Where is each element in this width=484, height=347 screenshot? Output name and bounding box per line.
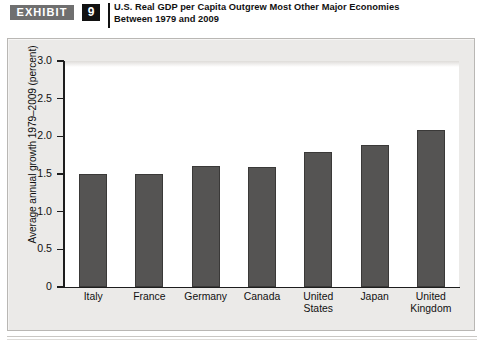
y-axis-tick-label: 0 [12, 280, 52, 292]
y-axis-tick [57, 136, 64, 137]
x-axis-tick-label-line: States [281, 303, 355, 315]
y-axis-tick [57, 211, 64, 212]
bar[interactable] [361, 145, 389, 287]
y-axis-tick-label: 1.0 [12, 205, 52, 217]
y-axis-tick [57, 286, 64, 287]
y-axis-tick [57, 249, 64, 250]
x-axis-tick-label: UnitedKingdom [394, 291, 468, 316]
y-axis-tick-label: 1.5 [12, 167, 52, 179]
exhibit-badge: EXHIBIT [10, 5, 74, 20]
footer-rule-top [7, 336, 477, 337]
x-axis-tick-label-line: United [394, 291, 468, 303]
x-axis-tick-label-line: Kingdom [394, 303, 468, 315]
chart-panel: Average annual growth 1979–2009 (percent… [7, 38, 475, 331]
page-title: U.S. Real GDP per Capita Outgrew Most Ot… [114, 2, 474, 25]
y-axis-tick-label: 2.5 [12, 92, 52, 104]
bar[interactable] [192, 166, 220, 287]
title-divider [108, 3, 110, 28]
y-axis-tick [57, 98, 64, 99]
bar-series [65, 61, 459, 287]
exhibit-header: EXHIBIT 9 U.S. Real GDP per Capita Outgr… [0, 0, 484, 34]
bar[interactable] [135, 174, 163, 287]
bar[interactable] [304, 152, 332, 287]
title-line-1: U.S. Real GDP per Capita Outgrew Most Ot… [114, 2, 474, 14]
footer-rule-bottom [7, 339, 477, 340]
y-axis-tick [57, 173, 64, 174]
y-axis-tick-label: 3.0 [12, 54, 52, 66]
y-axis-tick-label: 0.5 [12, 242, 52, 254]
exhibit-figure: EXHIBIT 9 U.S. Real GDP per Capita Outgr… [0, 0, 484, 347]
bar[interactable] [248, 167, 276, 287]
bar[interactable] [417, 130, 445, 287]
title-line-2: Between 1979 and 2009 [114, 14, 474, 26]
y-axis-tick-label: 2.0 [12, 129, 52, 141]
bar[interactable] [79, 174, 107, 287]
y-axis-tick [57, 60, 64, 61]
exhibit-number-badge: 9 [82, 4, 100, 21]
x-axis-tick-labels: ItalyFranceGermanyCanadaUnitedStatesJapa… [65, 291, 459, 329]
